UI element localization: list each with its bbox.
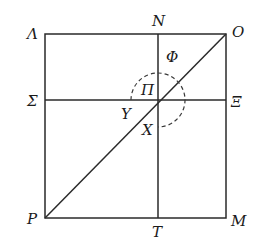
label-T: T xyxy=(152,223,163,241)
label-xi: Ξ xyxy=(230,93,242,111)
geometry-diagram: Λ N O Φ Π Σ Ξ Υ X P T M xyxy=(0,0,261,252)
label-P: P xyxy=(26,210,38,228)
diagonal-PO xyxy=(45,34,226,218)
label-M: M xyxy=(230,212,247,230)
label-chi: X xyxy=(141,121,154,139)
label-pi: Π xyxy=(140,81,155,99)
label-O: O xyxy=(232,23,244,41)
label-lambda: Λ xyxy=(25,25,38,43)
label-upsilon: Υ xyxy=(121,105,133,123)
label-N: N xyxy=(151,12,166,30)
label-phi: Φ xyxy=(166,48,178,66)
label-sigma: Σ xyxy=(26,92,38,110)
